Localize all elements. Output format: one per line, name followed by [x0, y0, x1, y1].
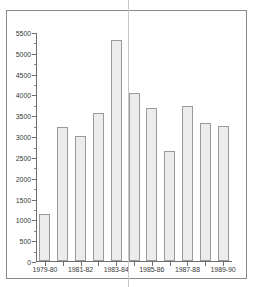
y-axis-tick — [32, 179, 36, 180]
x-axis-tick — [170, 262, 171, 266]
y-axis-tick-label: 0 — [27, 259, 31, 266]
y-axis-minor-tick — [34, 85, 36, 86]
x-axis-tick-label: 1989-90 — [211, 266, 236, 273]
bar — [164, 151, 175, 261]
bar — [146, 108, 157, 261]
x-axis-tick — [205, 262, 206, 266]
y-axis-tick-label: 2500 — [16, 154, 31, 161]
bar — [218, 126, 229, 261]
x-axis-tick — [98, 262, 99, 266]
bar — [200, 123, 211, 261]
y-axis-tick — [32, 262, 36, 263]
y-axis-tick-label: 5500 — [16, 30, 31, 37]
y-axis-tick — [32, 241, 36, 242]
y-axis-minor-tick — [34, 106, 36, 107]
y-axis-tick — [32, 54, 36, 55]
y-axis-tick — [32, 200, 36, 201]
bar — [93, 113, 104, 261]
y-axis-tick — [32, 220, 36, 221]
y-axis-tick-label: 500 — [20, 238, 31, 245]
y-axis-tick-label: 1000 — [16, 217, 31, 224]
y-axis-minor-tick — [34, 127, 36, 128]
y-axis-tick — [32, 75, 36, 76]
y-axis-minor-tick — [34, 43, 36, 44]
x-axis-tick — [134, 262, 135, 266]
y-axis-tick — [32, 116, 36, 117]
bar-chart-figure: 0500100015002000250030003500400045005000… — [0, 0, 254, 287]
bar — [129, 93, 140, 261]
y-axis-minor-tick — [34, 210, 36, 211]
x-axis-tick-label: 1983-84 — [104, 266, 129, 273]
x-axis-tick-label: 1981-82 — [68, 266, 93, 273]
y-axis-tick-label: 4000 — [16, 92, 31, 99]
bar — [75, 136, 86, 261]
bar — [111, 40, 122, 261]
chart-frame: 0500100015002000250030003500400045005000… — [6, 10, 247, 279]
x-axis-tick-label: 1987-88 — [175, 266, 200, 273]
vertical-guide-line — [128, 0, 129, 287]
bar — [182, 106, 193, 261]
y-axis-tick — [32, 137, 36, 138]
y-axis-line — [36, 33, 37, 262]
x-axis-tick-label: 1979-80 — [32, 266, 57, 273]
y-axis-minor-tick — [34, 148, 36, 149]
bar — [57, 127, 68, 261]
y-axis-tick-label: 4500 — [16, 71, 31, 78]
x-axis-tick — [63, 262, 64, 266]
y-axis-tick-label: 5000 — [16, 50, 31, 57]
x-axis-tick-label: 1985-86 — [139, 266, 164, 273]
y-axis-minor-tick — [34, 64, 36, 65]
bar — [39, 214, 50, 261]
y-axis-minor-tick — [34, 189, 36, 190]
y-axis-tick-label: 3500 — [16, 113, 31, 120]
y-axis-minor-tick — [34, 252, 36, 253]
y-axis-tick-label: 1500 — [16, 196, 31, 203]
y-axis-minor-tick — [34, 168, 36, 169]
y-axis-tick-label: 3000 — [16, 134, 31, 141]
y-axis-tick — [32, 33, 36, 34]
y-axis-minor-tick — [34, 231, 36, 232]
y-axis-tick — [32, 158, 36, 159]
plot-area: 0500100015002000250030003500400045005000… — [36, 33, 232, 262]
y-axis-tick-label: 2000 — [16, 175, 31, 182]
y-axis-tick — [32, 95, 36, 96]
